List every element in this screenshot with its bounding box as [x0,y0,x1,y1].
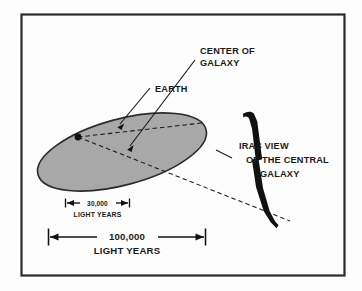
dimension-100000-value: 100,000 [109,231,145,242]
figure-root: EARTH CENTER OF GALAXY IRAS VIEW OF THE … [0,0,362,291]
earth-position-dot [75,134,82,141]
galaxy-diagram: EARTH CENTER OF GALAXY IRAS VIEW OF THE … [0,0,362,291]
dimension-100000-units: LIGHT YEARS [94,245,161,256]
dimension-30000-units: LIGHT YEARS [74,211,122,218]
iras-label-line1: IRAS VIEW [239,141,289,151]
center-of-galaxy-label-line1: CENTER OF [200,46,255,56]
earth-label: EARTH [155,84,188,94]
center-of-galaxy-label-line2: GALAXY [200,58,239,68]
dimension-30000-value: 30,000 [87,200,108,208]
iras-label-line3: GALAXY [260,169,299,179]
iras-label-line2: OF THE CENTRAL [246,155,329,165]
